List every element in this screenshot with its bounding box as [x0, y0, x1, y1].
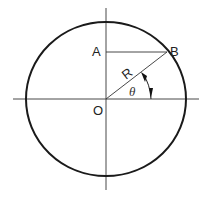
- label-a: A: [92, 44, 101, 59]
- diagram-canvas: A B O R θ: [0, 0, 206, 205]
- label-r: R: [119, 65, 136, 83]
- label-theta: θ: [129, 84, 136, 99]
- label-b: B: [170, 44, 179, 59]
- radius-line-ob: [106, 52, 167, 99]
- label-o: O: [93, 103, 103, 118]
- arc-arrowhead-top-icon: [141, 72, 147, 82]
- circle-diagram: A B O R θ: [0, 0, 206, 205]
- arc-arrowhead-bottom-icon: [149, 88, 153, 98]
